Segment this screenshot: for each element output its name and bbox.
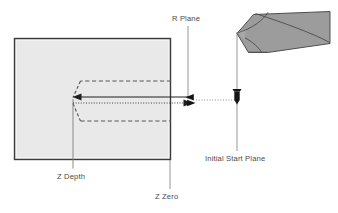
tool-body-solid <box>237 12 330 53</box>
drill-bit-marker-icon <box>233 89 242 105</box>
label-z-depth: Z Depth <box>57 172 85 181</box>
drill-cycle-diagram: R Plane Z Depth Z Zero Initial Start Pla… <box>0 0 338 213</box>
label-initial-start-plane: Initial Start Plane <box>205 154 265 163</box>
marker-body <box>234 92 239 101</box>
drill-tool-3d-icon <box>237 12 330 53</box>
marker-point <box>234 100 239 105</box>
workpiece-rect <box>15 39 171 160</box>
label-z-zero: Z Zero <box>155 192 178 201</box>
r-plane-arrowhead-right <box>187 100 195 106</box>
diagram-canvas: R Plane Z Depth Z Zero Initial Start Pla… <box>0 0 338 213</box>
workpiece-block <box>15 39 171 160</box>
label-r-plane: R Plane <box>172 14 200 23</box>
r-plane-arrowhead-left <box>186 94 194 100</box>
marker-flange <box>233 89 242 92</box>
